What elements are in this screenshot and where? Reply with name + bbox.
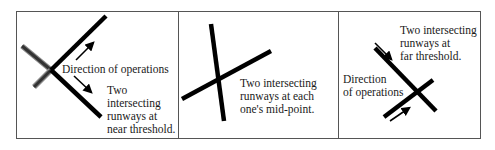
direction-of-operations-label: Direction of operations bbox=[62, 63, 169, 76]
mid-point-description: Two intersecting runways at each one's m… bbox=[240, 77, 317, 116]
direction-of-operations-label-2: Direction of operations bbox=[343, 73, 403, 99]
near-threshold-description: Two intersecting runways at near thresho… bbox=[107, 84, 175, 136]
runway-a bbox=[211, 24, 224, 121]
arrow-down-right-icon bbox=[74, 76, 91, 92]
runway-a bbox=[51, 16, 106, 70]
far-threshold-description: Two intersecting runways at far threshol… bbox=[400, 24, 477, 63]
